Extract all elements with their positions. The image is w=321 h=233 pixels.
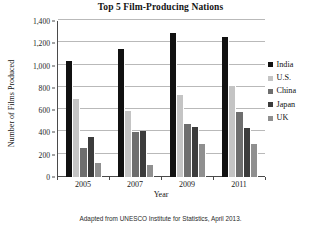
legend-item-india[interactable]: India [268, 58, 321, 71]
bar-china-2007[interactable] [132, 132, 139, 177]
x-axis-tick-label: 2009 [179, 180, 195, 189]
y-axis-tick-label: 400 [39, 128, 50, 137]
chart-figure: Top 5 Film-Producing Nations Number of F… [0, 0, 321, 233]
legend-item-uk[interactable]: UK [268, 112, 321, 125]
legend-item-japan[interactable]: Japan [268, 98, 321, 111]
x-axis-tick-mark [109, 177, 110, 180]
bar-us-2009[interactable] [177, 95, 184, 177]
gridline [58, 19, 265, 20]
bar-group [66, 21, 102, 177]
bar-japan-2011[interactable] [244, 128, 251, 177]
y-axis-tick-mark [52, 43, 55, 44]
x-axis-tick-mark [161, 177, 162, 180]
y-axis-tick-label: 600 [39, 106, 50, 115]
legend-item-label: U.S. [277, 74, 292, 82]
y-axis-tick-label: 1,400 [33, 17, 50, 26]
legend-swatch-icon [268, 102, 273, 107]
bar-india-2005[interactable] [66, 61, 73, 177]
bar-india-2009[interactable] [170, 33, 177, 177]
y-axis-tick-label: 1,000 [33, 61, 50, 70]
bar-us-2011[interactable] [229, 86, 236, 177]
legend-swatch-icon [268, 89, 273, 94]
bar-uk-2007[interactable] [147, 165, 154, 177]
y-axis-tick-mark [52, 177, 55, 178]
chart-source-note: Adapted from UNESCO Institute for Statis… [0, 215, 321, 222]
bar-india-2007[interactable] [118, 49, 125, 177]
legend-item-label: UK [277, 114, 289, 122]
bar-japan-2007[interactable] [140, 131, 147, 177]
bar-us-2005[interactable] [73, 99, 80, 177]
y-axis-tick-labels: 02004006008001,0001,2001,400 [0, 21, 55, 178]
bar-uk-2011[interactable] [251, 144, 258, 177]
legend-swatch-icon [268, 116, 273, 121]
legend-item-label: Japan [277, 101, 296, 109]
bar-uk-2009[interactable] [199, 144, 206, 177]
bar-china-2011[interactable] [236, 112, 243, 177]
legend-swatch-icon [268, 62, 273, 67]
bar-china-2009[interactable] [184, 124, 191, 177]
bar-group [222, 21, 258, 177]
y-axis-tick-mark [52, 154, 55, 155]
bar-group [118, 21, 154, 177]
x-axis-title: Year [57, 190, 265, 199]
y-axis-tick-mark [52, 21, 55, 22]
bar-india-2011[interactable] [222, 37, 229, 177]
bar-group [170, 21, 206, 177]
legend-item-us[interactable]: U.S. [268, 71, 321, 84]
bar-japan-2005[interactable] [88, 137, 95, 177]
y-axis-tick-mark [52, 110, 55, 111]
bar-uk-2005[interactable] [95, 163, 102, 177]
y-axis-tick-mark [52, 65, 55, 66]
x-axis-tick-mark [265, 177, 266, 180]
bar-china-2005[interactable] [80, 148, 87, 177]
y-axis-tick-mark [52, 87, 55, 88]
x-axis-tick-mark [213, 177, 214, 180]
chart-legend: IndiaU.S.ChinaJapanUK [268, 58, 321, 125]
legend-item-label: India [277, 61, 294, 69]
x-axis-tick-mark [57, 177, 58, 180]
y-axis-tick-label: 0 [46, 173, 50, 182]
legend-swatch-icon [268, 76, 273, 81]
bars-layer [57, 21, 265, 177]
x-axis-tick-label: 2011 [231, 180, 247, 189]
y-axis-tick-label: 1,200 [33, 39, 50, 48]
x-axis-tick-label: 2005 [75, 180, 91, 189]
legend-item-china[interactable]: China [268, 85, 321, 98]
bar-us-2007[interactable] [125, 111, 132, 177]
y-axis-tick-label: 200 [39, 150, 50, 159]
x-axis-tick-label: 2007 [127, 180, 143, 189]
y-axis-tick-label: 800 [39, 83, 50, 92]
chart-title: Top 5 Film-Producing Nations [0, 2, 321, 12]
y-axis-tick-mark [52, 132, 55, 133]
legend-item-label: China [277, 87, 297, 95]
bar-japan-2009[interactable] [192, 127, 199, 177]
